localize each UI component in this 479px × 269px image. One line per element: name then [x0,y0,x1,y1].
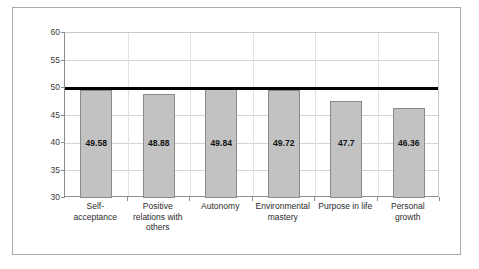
y-axis-tick-mark [61,60,65,61]
y-axis-tick-label: 45 [36,110,60,119]
bar-value-label: 46.36 [378,139,441,148]
gridline [65,170,438,171]
category-label-line: Purpose in life [314,201,377,212]
y-axis-tick-label: 40 [36,138,60,147]
y-axis-tick-label: 30 [36,193,60,202]
gridline [65,115,438,116]
y-axis: 30354045505560 [32,32,60,197]
bar-value-label: 49.58 [65,139,128,148]
category-divider [190,33,191,196]
x-axis-tick-mark [439,197,440,201]
y-axis-tick-label: 60 [36,28,60,37]
gridline [65,60,438,61]
y-axis-tick-mark [61,115,65,116]
category-divider [315,33,316,196]
bar-value-label: 49.72 [253,139,316,148]
y-axis-tick-label: 50 [36,83,60,92]
y-axis-tick-label: 55 [36,55,60,64]
bar [330,101,362,198]
category-label-line: acceptance [64,212,127,223]
category-label-line: Environmental [252,201,315,212]
bar [393,108,425,198]
category-label-line: growth [377,212,440,223]
category-label-line: Self- [64,201,127,212]
x-axis-category-label: Autonomy [189,201,252,212]
x-axis-category-label: Environmentalmastery [252,201,315,222]
category-divider [378,33,379,196]
category-divider [128,33,129,196]
y-axis-tick-label: 35 [36,165,60,174]
bar-value-label: 47.7 [315,139,378,148]
bar-value-label: 49.84 [190,139,253,148]
category-label-line: others [127,222,190,233]
plot-area: 49.5848.8849.8449.7247.746.36 [64,32,439,197]
category-label-line: Autonomy [189,201,252,212]
y-axis-tick-mark [61,32,65,33]
y-axis-tick-mark [61,197,65,198]
chart-frame: 30354045505560 49.5848.8849.8449.7247.74… [12,7,461,255]
x-axis-category-label: Purpose in life [314,201,377,212]
category-label-line: Positive [127,201,190,212]
x-axis-category-label: Self-acceptance [64,201,127,222]
x-axis-category-label: Positiverelations withothers [127,201,190,233]
bar-value-label: 48.88 [128,139,191,148]
x-axis-category-label: Personalgrowth [377,201,440,222]
category-label-line: relations with [127,212,190,223]
reference-line [65,87,438,90]
y-axis-tick-mark [61,170,65,171]
category-label-line: mastery [252,212,315,223]
category-label-line: Personal [377,201,440,212]
category-divider [253,33,254,196]
